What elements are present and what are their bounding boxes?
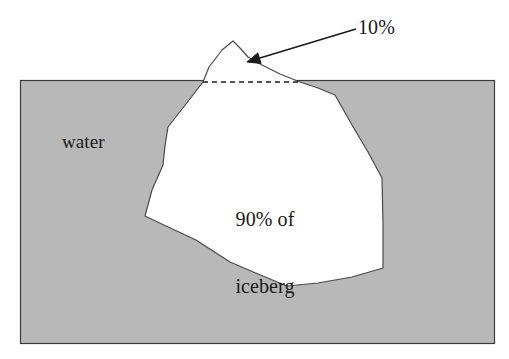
submerged-label-line-2: iceberg xyxy=(218,275,312,297)
water-label: water xyxy=(62,131,105,152)
submerged-label-line-1: 90% of xyxy=(218,208,312,230)
submerged-percentage-label: 90% of iceberg xyxy=(218,163,312,342)
exposed-percentage-label: 10% xyxy=(358,16,395,38)
annotation-arrow xyxy=(247,29,356,63)
arrow-shaft xyxy=(257,29,356,59)
iceberg-diagram: water 10% 90% of iceberg xyxy=(0,0,509,359)
